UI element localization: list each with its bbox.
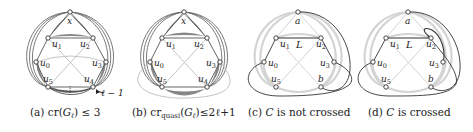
svg-text:u0: u0 <box>154 58 164 70</box>
svg-text:u2: u2 <box>426 39 436 51</box>
svg-text:u3: u3 <box>92 58 102 70</box>
svg-text:u2: u2 <box>316 39 326 51</box>
svg-text:u0: u0 <box>40 58 50 70</box>
svg-text:u5: u5 <box>157 74 167 86</box>
svg-text:u2: u2 <box>80 39 90 51</box>
svg-text:a: a <box>295 16 300 26</box>
caption-c: (c) C is not crossed <box>248 106 350 118</box>
svg-text:u1: u1 <box>52 39 62 51</box>
svg-text:u1: u1 <box>166 39 176 51</box>
svg-text:u3: u3 <box>206 58 216 70</box>
edge-label-L-d: L <box>405 39 413 50</box>
svg-text:x: x <box>181 16 186 26</box>
svg-text:u1: u1 <box>390 39 400 51</box>
svg-text:u4: u4 <box>84 74 94 86</box>
svg-text:x: x <box>67 16 72 26</box>
svg-text:u5: u5 <box>43 74 53 86</box>
svg-text:b: b <box>318 74 324 84</box>
svg-text:u4: u4 <box>198 74 208 86</box>
caption-a: (a) cr(Gℓ) ≤ 3 <box>30 106 100 120</box>
svg-text:b: b <box>428 74 434 84</box>
svg-text:u1: u1 <box>280 39 290 51</box>
svg-text:u3: u3 <box>429 58 439 70</box>
caption-b: (b) crquasi(Gℓ)≤2ℓ+1 <box>132 106 236 120</box>
svg-text:u0: u0 <box>377 58 387 70</box>
svg-text:u2: u2 <box>194 39 204 51</box>
svg-text:a: a <box>405 16 410 26</box>
caption-d: (d) C is crossed <box>368 106 451 118</box>
svg-text:u3: u3 <box>320 58 330 70</box>
svg-text:u0: u0 <box>268 58 278 70</box>
ell-minus-one-label: ℓ − 1 <box>101 88 124 98</box>
edge-label-L-c: L <box>295 39 303 50</box>
